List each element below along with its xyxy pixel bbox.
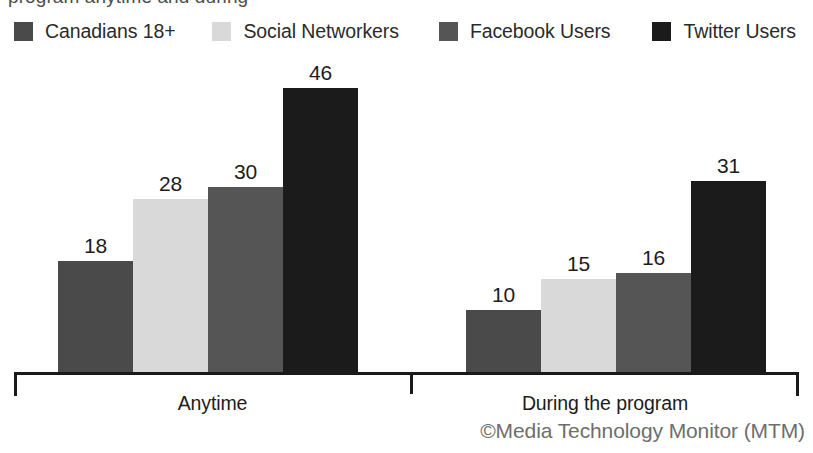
attribution-text: ©Media Technology Monitor (MTM) (480, 419, 805, 443)
bar-value-label: 18 (58, 234, 133, 258)
bar-value-label: 30 (208, 160, 283, 184)
bar-chart: program anytime and during Canadians 18+… (0, 0, 813, 453)
group-label-during-the-program: During the program (411, 392, 799, 415)
bar (58, 261, 133, 372)
axis-tick-middle (410, 372, 413, 394)
bar-value-label: 16 (616, 246, 691, 270)
bar (208, 187, 283, 372)
bar-value-label: 10 (466, 283, 541, 307)
bar-value-label: 28 (133, 172, 208, 196)
bar-value-label: 31 (691, 154, 766, 178)
x-axis-line (14, 372, 799, 375)
bar-value-label: 15 (541, 252, 616, 276)
bar (133, 199, 208, 372)
bar-value-label: 46 (283, 61, 358, 85)
group-label-anytime: Anytime (14, 392, 411, 415)
bar (466, 310, 541, 372)
bar (283, 88, 358, 372)
bar (616, 273, 691, 372)
bar (691, 181, 766, 372)
plot-area: 1828304610151631 (0, 0, 813, 453)
bar (541, 279, 616, 372)
